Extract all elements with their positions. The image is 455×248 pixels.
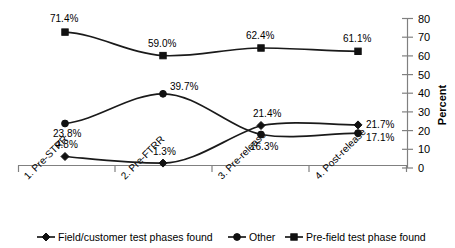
data-label: 16.3% bbox=[250, 141, 278, 152]
x-category-label: 2. Pre-FTRR bbox=[119, 134, 167, 182]
legend-label: Pre-field test phase found bbox=[306, 231, 426, 243]
data-label: 21.4% bbox=[253, 108, 281, 119]
legend-label: Field/customer test phases found bbox=[58, 231, 213, 243]
y-tick-labels: 80 70 60 50 40 30 20 10 0 bbox=[418, 13, 430, 175]
y-tick-label: 10 bbox=[418, 143, 430, 155]
circle-marker-icon bbox=[234, 234, 241, 241]
data-label: 17.1% bbox=[366, 132, 394, 143]
y-tick-label: 40 bbox=[418, 87, 430, 99]
x-axis-ticks bbox=[19, 166, 407, 173]
y-tick-label: 60 bbox=[418, 50, 430, 62]
data-label: 61.1% bbox=[343, 33, 371, 44]
data-labels: 71.4% 59.0% 62.4% 61.1% 23.8% 39.7% 16.3… bbox=[50, 13, 394, 157]
data-label: 71.4% bbox=[50, 13, 78, 24]
series-markers-other bbox=[62, 90, 362, 138]
square-marker-icon bbox=[291, 234, 297, 240]
line-chart: 80 70 60 50 40 30 20 10 0 Percent 1. Pre… bbox=[0, 0, 455, 248]
data-label: 23.8% bbox=[53, 128, 81, 139]
data-label: 59.0% bbox=[148, 38, 176, 49]
y-tick-label: 50 bbox=[418, 69, 430, 81]
legend-item-pre-field[interactable]: Pre-field test phase found bbox=[285, 231, 426, 243]
data-label: 4.8% bbox=[55, 139, 78, 150]
data-label: 1.3% bbox=[153, 146, 176, 157]
chart-legend: Field/customer test phases found Other P… bbox=[37, 231, 426, 243]
legend-item-field-customer[interactable]: Field/customer test phases found bbox=[37, 231, 213, 243]
y-tick-label: 70 bbox=[418, 31, 430, 43]
y-tick-label: 30 bbox=[418, 106, 430, 118]
series-line-other bbox=[65, 94, 358, 137]
series-line-pre-field bbox=[65, 32, 358, 56]
chart-canvas: 80 70 60 50 40 30 20 10 0 Percent 1. Pre… bbox=[0, 0, 455, 248]
y-tick-label: 20 bbox=[418, 125, 430, 137]
series-markers-pre-field bbox=[62, 29, 361, 59]
legend-item-other[interactable]: Other bbox=[228, 231, 276, 243]
series-line-field-customer bbox=[65, 123, 358, 163]
y-tick-label: 80 bbox=[418, 13, 430, 25]
data-label: 21.7% bbox=[366, 119, 394, 130]
y-axis-title: Percent bbox=[436, 84, 448, 125]
legend-label: Other bbox=[249, 231, 276, 243]
diamond-marker-icon bbox=[42, 233, 50, 241]
y-tick-label: 0 bbox=[418, 162, 424, 174]
data-label: 39.7% bbox=[170, 81, 198, 92]
data-label: 62.4% bbox=[246, 30, 274, 41]
